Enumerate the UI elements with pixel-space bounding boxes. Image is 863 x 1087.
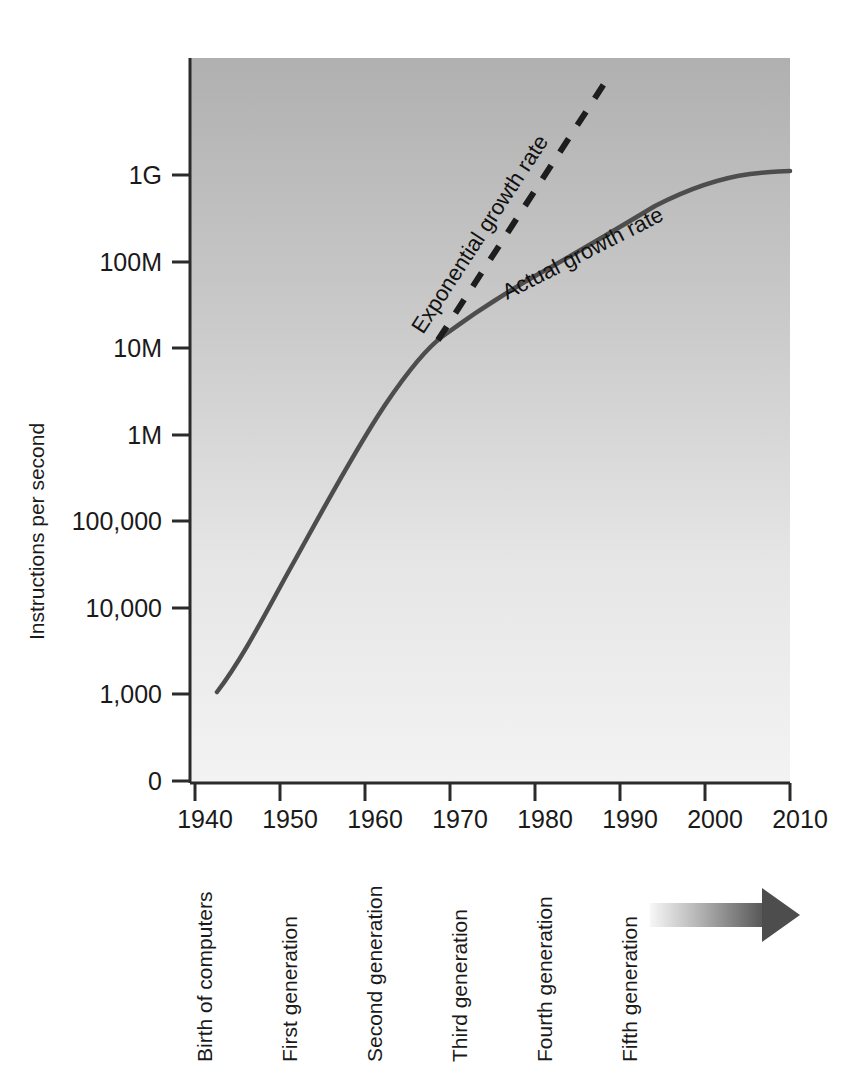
y-tick-label-100000: 100,000 <box>72 507 162 535</box>
x-tick-label-1960: 1960 <box>347 805 403 833</box>
generation-label-second-generation: Second generation <box>363 886 386 1062</box>
x-tick-label-2010: 2010 <box>772 805 828 833</box>
plot-area-background <box>190 58 790 783</box>
y-tick-label-10m: 10M <box>113 334 162 362</box>
y-tick-label-1000: 1,000 <box>99 680 162 708</box>
generation-label-birth-of-computers: Birth of computers <box>193 892 216 1062</box>
y-tick-label-100m: 100M <box>99 248 162 276</box>
x-tick-label-1980: 1980 <box>517 805 573 833</box>
generation-label-third-generation: Third generation <box>448 909 471 1062</box>
chart-figure: 1G 100M 10M 1M 100,000 10,000 1,000 0 In… <box>0 0 863 1087</box>
y-tick-label-1g: 1G <box>129 161 162 189</box>
generation-label-first-generation: First generation <box>278 916 301 1062</box>
x-tick-label-1950: 1950 <box>262 805 318 833</box>
generation-label-fifth-generation: Fifth generation <box>618 916 641 1062</box>
growth-rate-line-chart: 1G 100M 10M 1M 100,000 10,000 1,000 0 In… <box>0 0 863 1087</box>
x-tick-label-1970: 1970 <box>432 805 488 833</box>
y-axis-ticks <box>172 175 190 781</box>
y-tick-label-1m: 1M <box>127 421 162 449</box>
x-axis-ticks <box>195 783 790 801</box>
y-tick-label-10000: 10,000 <box>86 594 162 622</box>
generation-label-fourth-generation: Fourth generation <box>533 896 556 1062</box>
y-tick-label-0: 0 <box>148 767 162 795</box>
y-axis-title: Instructions per second <box>25 423 48 640</box>
x-tick-label-1940: 1940 <box>177 805 233 833</box>
x-tick-label-1990: 1990 <box>602 805 658 833</box>
x-tick-label-2000: 2000 <box>687 805 743 833</box>
time-progression-arrow-icon <box>650 888 800 942</box>
